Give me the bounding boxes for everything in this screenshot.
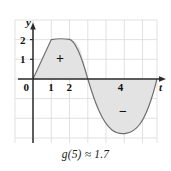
y-tick-label-1: 1 [20, 53, 26, 65]
x-tick-label-1: 1 [48, 81, 54, 93]
x-tick-label-2: 2 [67, 81, 73, 93]
x-tick-label-4: 4 [118, 81, 124, 93]
negative-sign-mark: − [119, 104, 127, 119]
x-tick-label-0: 0 [24, 81, 30, 93]
y-tick-label-2: 2 [20, 34, 26, 46]
positive-sign-mark: + [56, 51, 64, 66]
y-axis-label: y [24, 16, 31, 28]
integral-area-figure: y t 2 1 0 1 2 4 + − [0, 0, 171, 171]
figure-caption: g(5) ≈ 1.7 [0, 148, 171, 160]
